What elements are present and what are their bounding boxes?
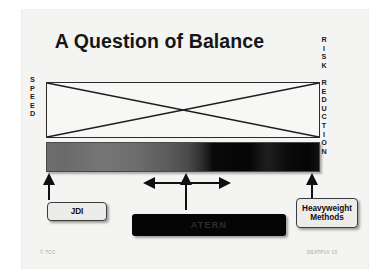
footer-copyright: © TCC <box>40 250 56 255</box>
callout-heavyweight-label: Heavyweight Methods <box>302 204 352 223</box>
crossing-lines-chart <box>46 82 320 138</box>
axis-label-speed: SPEED <box>27 76 38 119</box>
callout-atern: ATERN <box>132 214 286 236</box>
callout-atern-label: ATERN <box>191 220 227 230</box>
callout-jdi: JDI <box>47 202 107 221</box>
callout-jdi-label: JDI <box>71 207 84 217</box>
spectrum-bar <box>46 142 320 172</box>
crossing-lines-svg <box>47 83 319 137</box>
slide-canvas: A Question of Balance SPEED RISK REDU CT… <box>22 10 368 268</box>
callout-heavyweight-line1: Heavyweight <box>302 204 352 213</box>
callout-heavyweight-methods: Heavyweight Methods <box>296 198 358 228</box>
page-title: A Question of Balance <box>22 30 297 53</box>
footer-slide-id: DSATP1V 15 <box>307 250 337 255</box>
callout-heavyweight-line2: Methods <box>310 213 344 222</box>
